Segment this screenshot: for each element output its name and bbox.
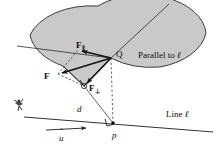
label-f-perpendicular: F⊥	[89, 84, 100, 94]
force-decomposition-figure: F∥ F F⊥ Q p Parallel to ℓ Line ℓ d ˆu	[0, 0, 220, 147]
label-distance-d: d	[77, 105, 82, 114]
elliptical-disk	[30, 0, 206, 86]
label-f-parallel: F∥	[76, 41, 85, 51]
label-unit-vector-u: ˆu	[59, 134, 64, 143]
drop-line-q-to-p	[111, 58, 113, 123]
ell-symbol-parallel: ℓ	[177, 50, 181, 60]
label-point-q: Q	[116, 50, 123, 59]
observer-figure-icon	[14, 99, 23, 111]
ell-symbol-line: ℓ	[185, 109, 189, 119]
figure-canvas	[0, 0, 220, 147]
point-p-marker	[111, 121, 114, 124]
disk-surface	[30, 0, 206, 86]
vector-u-hat	[46, 128, 86, 130]
label-point-p: p	[112, 131, 117, 140]
label-line-ell: Line ℓ	[166, 110, 189, 119]
label-parallel-to-line: Parallel to ℓ	[138, 51, 181, 60]
hat-accent: ˆ	[60, 129, 63, 137]
label-f-total: F	[44, 72, 50, 81]
